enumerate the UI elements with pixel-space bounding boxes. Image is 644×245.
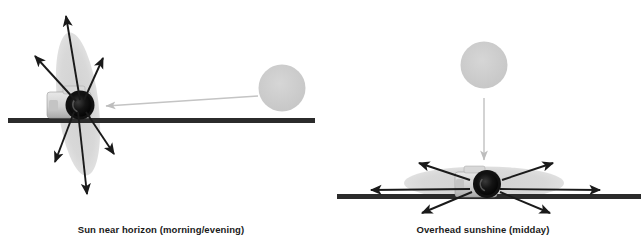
caption-overhead-sunshine: Overhead sunshine (midday) — [322, 224, 644, 235]
panel-sun-near-horizon — [8, 16, 315, 194]
camera-grip — [49, 100, 58, 111]
caption-sun-near-horizon: Sun near horizon (morning/evening) — [0, 224, 322, 235]
camera-lens-glass — [476, 173, 498, 195]
incoming-sunlight-ray — [106, 96, 258, 106]
diagram-canvas — [0, 0, 644, 245]
sun-disc-icon — [461, 42, 508, 89]
scatter-arrow — [371, 189, 470, 190]
sun-disc-icon — [259, 65, 306, 112]
diagram-figure: Sun near horizon (morning/evening) Overh… — [0, 0, 644, 245]
scatter-arrow — [500, 189, 600, 190]
panel-overhead-sunshine — [337, 42, 641, 214]
